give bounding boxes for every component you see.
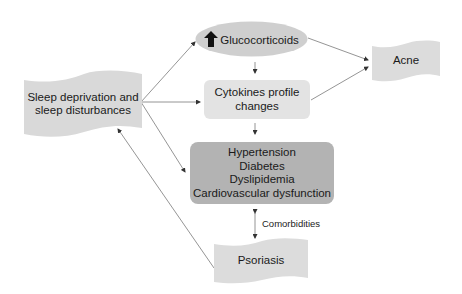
node-sleep-label: Sleep deprivation and sleep disturbances (27, 91, 138, 118)
node-cytokines-label: Cytokines profile changes (214, 86, 299, 113)
node-psoriasis-label: Psoriasis (238, 254, 285, 268)
arrow-sleep-to-glucocorticoids (141, 42, 195, 102)
node-glucocorticoids-label: Glucocorticoids (204, 31, 299, 48)
arrow-glucocorticoids-to-acne (308, 38, 368, 60)
node-glucocorticoids: Glucocorticoids (195, 21, 308, 57)
arrow-cytokines-to-acne (311, 67, 368, 100)
node-sleep-deprivation: Sleep deprivation and sleep disturbances (24, 70, 142, 138)
edge-label-comorbidities: Comorbidities (262, 218, 320, 229)
up-arrow-icon (204, 31, 218, 47)
node-cardiometabolic-label: Hypertension Diabetes Dyslipidemia Cardi… (193, 146, 331, 200)
arrow-sleep-to-comorbid (141, 102, 185, 172)
node-cytokines: Cytokines profile changes (204, 80, 310, 119)
node-cardiometabolic-conditions: Hypertension Diabetes Dyslipidemia Cardi… (190, 142, 334, 204)
node-psoriasis: Psoriasis (214, 238, 308, 284)
node-acne: Acne (372, 40, 440, 82)
node-acne-label: Acne (393, 54, 419, 68)
